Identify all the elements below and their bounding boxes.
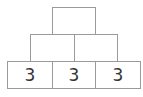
pyramid-bottom-cell-middle[interactable]: 3 <box>52 61 96 89</box>
pyramid-bottom-cell-left[interactable]: 3 <box>7 61 53 89</box>
pyramid-bottom-cell-right[interactable]: 3 <box>95 61 141 89</box>
pyramid-middle-cell-left[interactable] <box>30 34 75 62</box>
pyramid-top-cell[interactable] <box>52 7 96 35</box>
pyramid-middle-cell-right[interactable] <box>74 34 118 62</box>
